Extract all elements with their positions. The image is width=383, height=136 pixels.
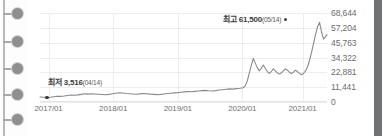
y-tick-label: 11,441 xyxy=(331,82,356,92)
y-tick-label: 57,204 xyxy=(331,23,356,33)
rail-node-4[interactable] xyxy=(3,89,26,100)
x-axis-labels: 2017/012018/012019/012020/012021/01 xyxy=(40,104,327,118)
rail-dot-icon xyxy=(12,89,23,100)
x-tick-label: 2018/01 xyxy=(99,104,127,113)
y-tick-label: 0 xyxy=(331,97,336,107)
rail-dot-icon xyxy=(12,36,23,47)
rail-dot-icon xyxy=(12,114,23,125)
max-annotation-prefix: 최고 xyxy=(223,15,237,24)
x-tick-label: 2017/01 xyxy=(35,104,63,113)
plot-region[interactable] xyxy=(40,13,327,102)
price-line-series xyxy=(40,13,327,102)
min-annotation-value: 3,516 xyxy=(64,78,83,87)
chart-area: 68,64457,20445,76334,32222,88111,4410 20… xyxy=(26,0,371,136)
scrollbar-track[interactable] xyxy=(373,0,383,136)
x-tick-label: 2020/01 xyxy=(228,104,256,113)
max-annotation-value: 61,500 xyxy=(239,15,262,24)
max-marker-dot-icon xyxy=(284,18,287,21)
min-marker-dot-icon xyxy=(45,96,49,100)
min-annotation-prefix: 최저 xyxy=(48,78,62,87)
stock-chart-widget: 68,64457,20445,76334,32222,88111,4410 20… xyxy=(0,0,383,136)
min-annotation-date: (04/14) xyxy=(83,79,102,86)
scrollbar-thumb[interactable] xyxy=(374,0,382,136)
rail-node-3[interactable] xyxy=(3,63,26,74)
gridline-h-6 xyxy=(40,102,327,103)
x-tick-label: 2021/01 xyxy=(289,104,317,113)
y-tick-label: 22,881 xyxy=(331,67,356,77)
max-annotation: 최고 61,500(05/14) xyxy=(223,13,287,24)
x-tick-label: 2019/01 xyxy=(164,104,192,113)
x-axis-line xyxy=(40,101,327,102)
rail-dot-icon xyxy=(12,8,23,19)
y-tick-label: 68,644 xyxy=(331,8,356,18)
rail-node-2[interactable] xyxy=(3,36,26,47)
y-tick-label: 34,322 xyxy=(331,53,356,63)
max-annotation-date: (05/14) xyxy=(262,16,281,23)
y-tick-label: 45,763 xyxy=(331,38,356,48)
rail-node-5[interactable] xyxy=(3,114,26,125)
rail-node-1[interactable] xyxy=(3,8,26,19)
timeline-rail xyxy=(0,0,26,136)
min-annotation: 최저 3,516(04/14) xyxy=(48,76,102,87)
rail-dot-icon xyxy=(12,63,23,74)
